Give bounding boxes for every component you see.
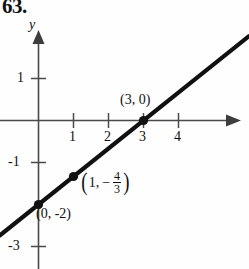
fraction-denominator: 3 <box>113 183 121 195</box>
x-tick-label-2: 2 <box>104 130 111 144</box>
point-label-midpoint: ( 1, − 4 3 ) <box>80 170 131 195</box>
fraction-four-thirds: 4 3 <box>113 170 121 195</box>
x-axis-arrowhead <box>226 115 241 127</box>
graph-canvas <box>0 0 249 269</box>
y-axis-label: y <box>29 18 35 32</box>
point-label-midpoint-sign: − <box>102 176 110 190</box>
y-tick-label-1: 1 <box>17 71 24 85</box>
paren-open: ( <box>81 173 87 192</box>
point-marker-x-intercept <box>139 116 148 125</box>
x-tick-label-4: 4 <box>174 130 181 144</box>
y-tick-label-neg1: -1 <box>8 155 20 169</box>
point-label-x-intercept: (3, 0) <box>120 93 150 107</box>
y-axis-arrowhead <box>33 30 45 44</box>
figure-container: 63. y 1 2 3 4 1 -1 -3 (3, 0) <box>0 0 249 269</box>
x-tick-label-3: 3 <box>139 130 146 144</box>
point-marker-midpoint <box>69 172 78 181</box>
point-label-y-intercept: (0, -2) <box>36 207 71 221</box>
paren-close: ) <box>123 173 129 192</box>
fraction-numerator: 4 <box>113 170 121 182</box>
x-tick-label-1: 1 <box>69 130 76 144</box>
point-label-midpoint-x: 1, <box>89 176 100 190</box>
y-tick-label-neg3: -3 <box>8 239 20 253</box>
